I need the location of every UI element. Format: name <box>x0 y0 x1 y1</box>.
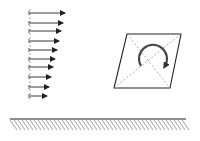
wall-hatch <box>166 120 173 130</box>
wall-hatch <box>22 120 29 130</box>
wall-hatch <box>182 120 189 130</box>
wall-hatch <box>90 120 97 130</box>
wall-hatch <box>138 120 145 130</box>
wall-hatch <box>146 120 153 130</box>
clockwise-rotation-icon <box>139 45 167 66</box>
wall-hatch <box>134 120 141 130</box>
wall-hatch <box>122 120 129 130</box>
diagonal-dashed <box>127 34 170 88</box>
wall-hatch <box>86 120 93 130</box>
shear-flow-diagram <box>0 0 200 141</box>
wall-hatch <box>34 120 41 130</box>
wall-hatch <box>26 120 33 130</box>
wall-hatch <box>78 120 85 130</box>
wall-hatch <box>106 120 113 130</box>
wall-hatch <box>170 120 177 130</box>
wall-hatch <box>54 120 61 130</box>
wall-hatch <box>18 120 25 130</box>
wall-hatch <box>174 120 181 130</box>
wall-hatch <box>158 120 165 130</box>
wall-hatch <box>82 120 89 130</box>
wall-hatch <box>102 120 109 130</box>
wall-hatch <box>150 120 157 130</box>
wall-hatch <box>74 120 81 130</box>
wall-hatch <box>14 120 21 130</box>
wall-hatch <box>50 120 57 130</box>
wall-hatch <box>130 120 137 130</box>
wall-hatch <box>118 120 125 130</box>
wall-hatch <box>38 120 45 130</box>
wall-hatch <box>58 120 65 130</box>
wall-hatch <box>142 120 149 130</box>
velocity-profile <box>29 9 65 100</box>
wall-hatch <box>162 120 169 130</box>
wall-hatch <box>70 120 77 130</box>
wall-hatch <box>42 120 49 130</box>
diagonal-dashed <box>114 34 181 88</box>
wall-hatch <box>10 120 17 130</box>
wall-hatch <box>110 120 117 130</box>
wall-hatch <box>178 120 185 130</box>
wall-hatch <box>66 120 73 130</box>
wall-hatch <box>154 120 161 130</box>
wall-hatch <box>114 120 121 130</box>
wall-hatch <box>46 120 53 130</box>
wall-hatch <box>98 120 105 130</box>
fluid-element <box>114 34 181 88</box>
wall-hatch <box>30 120 37 130</box>
wall-hatch <box>126 120 133 130</box>
wall-hatch <box>62 120 69 130</box>
wall-boundary <box>10 119 189 130</box>
wall-hatch <box>94 120 101 130</box>
